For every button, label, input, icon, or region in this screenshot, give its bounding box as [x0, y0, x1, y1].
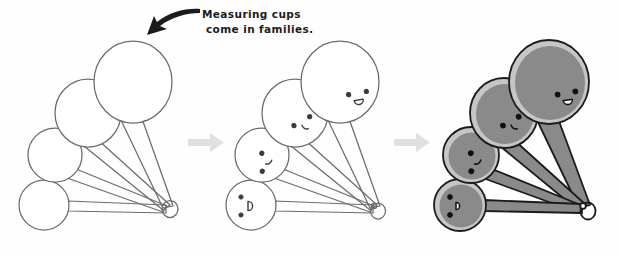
measuring-cups-illustration: Measuring cups come in families.	[0, 0, 619, 256]
handle-medium	[274, 169, 374, 212]
cup-small	[19, 180, 69, 230]
illustration-canvas: Measuring cups come in families.	[0, 0, 619, 256]
handle-medium	[67, 169, 167, 212]
arrow-right-icon	[394, 133, 430, 152]
stage-3-colored	[434, 40, 596, 231]
stage-1-outline	[19, 41, 178, 230]
stage-2-faces	[226, 41, 386, 230]
handle-small	[275, 201, 373, 213]
annotation-line-2: come in families.	[206, 23, 313, 35]
cup-largest	[509, 40, 589, 124]
handle-largest	[327, 113, 380, 208]
arrow-right-icon	[188, 133, 224, 152]
cup-largest	[301, 41, 379, 123]
stage-separator-1	[188, 133, 224, 152]
handle-largest	[120, 113, 173, 208]
cup-small	[226, 180, 276, 230]
cup-largest	[94, 41, 172, 123]
annotation-line-1: Measuring cups	[202, 8, 301, 20]
stage-separator-2	[394, 133, 430, 152]
annotation-arrow	[147, 9, 200, 35]
handle-small	[68, 201, 166, 213]
curved-arrow-icon	[147, 9, 200, 35]
